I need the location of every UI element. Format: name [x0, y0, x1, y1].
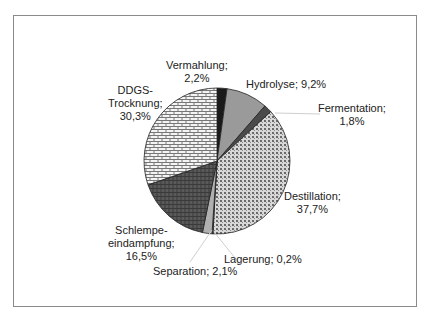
label-name-2: eindampfung;	[108, 237, 175, 250]
label-name: Vermahlung;	[166, 59, 228, 72]
label-name: Destillation;	[284, 190, 341, 203]
label-hydrolyse: Hydrolyse; 9,2%	[246, 78, 326, 91]
label-ddgs-trocknung: DDGS- Trocknung; 30,3%	[108, 84, 163, 123]
label-destillation: Destillation; 37,7%	[284, 190, 341, 216]
pie-slices	[144, 88, 290, 234]
label-value: 30,3%	[108, 110, 163, 123]
label-vermahlung: Vermahlung; 2,2%	[166, 59, 228, 85]
label-text: Hydrolyse; 9,2%	[246, 78, 326, 91]
label-text: Separation; 2,1%	[153, 265, 237, 278]
label-name-1: Schlempe-	[108, 224, 175, 237]
label-fermentation: Fermentation; 1,8%	[318, 102, 386, 128]
label-separation: Separation; 2,1%	[153, 265, 237, 278]
label-value: 1,8%	[318, 115, 386, 128]
label-name-1: DDGS-	[108, 84, 163, 97]
label-schlempeeindampfung: Schlempe- eindampfung; 16,5%	[108, 224, 175, 263]
label-value: 2,2%	[166, 72, 228, 85]
label-value: 37,7%	[284, 203, 341, 216]
label-name: Fermentation;	[318, 102, 386, 115]
label-name-2: Trocknung;	[108, 97, 163, 110]
label-value: 16,5%	[108, 250, 175, 263]
